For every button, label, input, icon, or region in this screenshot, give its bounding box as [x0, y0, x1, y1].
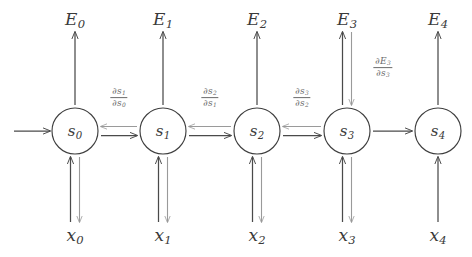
output-label-E1-symbol: E [153, 9, 165, 29]
gradient-label-dE3_ds3-numerator: ∂E3 [373, 57, 392, 68]
input-label-x3: x3 [338, 225, 355, 247]
input-label-x4-subscript: 4 [439, 233, 446, 247]
gradient-label-ds2_ds1-numerator: ∂s2 [201, 87, 218, 98]
input-label-x3-subscript: 3 [348, 233, 355, 247]
input-label-x1: x1 [154, 225, 171, 247]
output-label-E4-symbol: E [428, 9, 440, 29]
output-label-E2-subscript: 2 [260, 17, 267, 31]
output-label-E2: E2 [247, 9, 267, 31]
gradient-label-ds3_ds2-numerator: ∂s3 [293, 87, 310, 98]
state-label-s3-subscript: 3 [348, 129, 354, 140]
output-label-E0-subscript: 0 [78, 17, 85, 31]
gradient-label-ds3_ds2-denominator: ∂s2 [293, 99, 310, 109]
output-label-E4: E4 [428, 9, 448, 31]
state-label-s2-symbol: s [250, 122, 258, 140]
state-label-s3: s3 [340, 122, 354, 141]
gradient-label-dE3_ds3: ∂E3∂s3 [373, 57, 392, 79]
input-label-x2-subscript: 2 [258, 233, 265, 247]
state-label-s1: s1 [156, 122, 170, 141]
output-label-E0: E0 [65, 9, 85, 31]
input-label-x3-symbol: x [338, 225, 348, 245]
state-label-s4-subscript: 4 [439, 129, 445, 140]
gradient-label-ds2_ds1-denominator: ∂s1 [201, 99, 218, 109]
state-label-s0: s0 [68, 122, 82, 141]
state-label-s3-symbol: s [340, 122, 348, 140]
state-label-s1-symbol: s [156, 122, 164, 140]
output-label-E3-symbol: E [337, 9, 349, 29]
output-label-E0-symbol: E [65, 9, 77, 29]
output-label-E3: E3 [337, 9, 357, 31]
state-label-s4: s4 [431, 122, 445, 141]
gradient-label-ds1_ds0-denominator: ∂s0 [110, 99, 127, 109]
state-label-s0-symbol: s [68, 122, 76, 140]
state-label-s4-symbol: s [431, 122, 439, 140]
input-label-x2-symbol: x [248, 225, 258, 245]
output-label-E3-subscript: 3 [350, 17, 357, 31]
input-label-x2: x2 [248, 225, 265, 247]
bptt-diagram: s0s1s2s3s4E0E1E2E3E4x0x1x2x3x4∂s1∂s0∂s2∂… [0, 0, 472, 257]
state-label-s2-subscript: 2 [258, 129, 264, 140]
gradient-label-ds1_ds0-numerator: ∂s1 [110, 87, 127, 98]
gradient-label-ds3_ds2: ∂s3∂s2 [293, 87, 310, 109]
input-label-x4: x4 [429, 225, 446, 247]
state-label-s2: s2 [250, 122, 264, 141]
state-label-s0-subscript: 0 [76, 129, 82, 140]
gradient-label-dE3_ds3-denominator: ∂s3 [373, 69, 392, 79]
input-label-x0-symbol: x [66, 225, 76, 245]
input-label-x0-subscript: 0 [76, 233, 83, 247]
input-label-x4-symbol: x [429, 225, 439, 245]
output-label-E2-symbol: E [247, 9, 259, 29]
input-label-x1-symbol: x [154, 225, 164, 245]
input-label-x1-subscript: 1 [164, 233, 171, 247]
state-label-s1-subscript: 1 [164, 129, 170, 140]
output-label-E1: E1 [153, 9, 173, 31]
input-label-x0: x0 [66, 225, 83, 247]
gradient-label-ds2_ds1: ∂s2∂s1 [201, 87, 218, 109]
output-label-E1-subscript: 1 [166, 17, 173, 31]
gradient-label-ds1_ds0: ∂s1∂s0 [110, 87, 127, 109]
output-label-E4-subscript: 4 [441, 17, 448, 31]
